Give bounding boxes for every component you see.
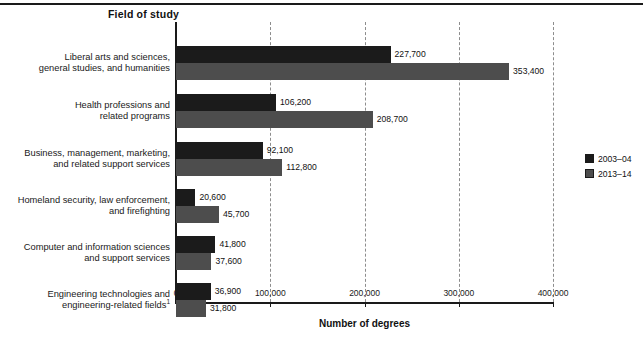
bar-value-label: 227,700 <box>395 46 426 63</box>
x-axis-tick <box>459 302 460 307</box>
top-rule-divider <box>0 3 643 5</box>
legend-label: 2013–14 <box>598 169 631 179</box>
category-label-column: Liberal arts and sciences,general studie… <box>0 22 170 302</box>
x-axis-tick-label: 300,000 <box>443 288 474 298</box>
x-axis-tick-label: 200,000 <box>349 288 380 298</box>
x-axis-tick-label: 0 <box>174 288 179 298</box>
legend-swatch-icon <box>585 154 594 163</box>
category-label-line: Homeland security, law enforcement, <box>2 195 170 207</box>
category-label: Health professions andrelated programs <box>2 100 170 123</box>
x-axis-label: Number of degrees <box>176 318 553 329</box>
bar-value-label: 37,600 <box>215 253 241 270</box>
bar-series-1 <box>176 283 211 300</box>
bar-value-label: 353,400 <box>513 63 544 80</box>
category-label-line: and related support services <box>2 159 170 171</box>
plot-area: 227,700353,400106,200208,70092,100112,80… <box>176 22 553 302</box>
gridline <box>553 22 555 302</box>
bar-value-label: 36,900 <box>215 283 241 300</box>
category-label-line: related programs <box>2 111 170 123</box>
bar-value-label: 112,800 <box>286 159 316 176</box>
category-label-line: and support services <box>2 253 170 265</box>
x-axis-tick <box>270 302 271 307</box>
bar-series-1 <box>176 189 195 206</box>
category-label-line: and firefighting <box>2 206 170 218</box>
footnote-marker: 1 <box>166 298 170 305</box>
bar-value-label: 208,700 <box>377 111 408 128</box>
bar-value-label: 92,100 <box>267 142 293 159</box>
legend-swatch-icon <box>585 169 594 178</box>
bar-series-2 <box>176 206 219 223</box>
legend-item[interactable]: 2013–14 <box>585 167 631 180</box>
bar-series-1 <box>176 236 215 253</box>
category-label-line: Liberal arts and sciences, <box>2 52 170 64</box>
x-axis-tick-label: 400,000 <box>538 288 569 298</box>
bar-value-label: 45,700 <box>223 206 249 223</box>
category-label-line: Engineering technologies and <box>2 289 170 301</box>
category-label-line: engineering-related fields1 <box>2 300 170 312</box>
bar-series-2 <box>176 300 206 317</box>
category-label-line: general studies, and humanities <box>2 63 170 75</box>
x-axis-tick-label: 100,000 <box>255 288 286 298</box>
category-label: Homeland security, law enforcement,and f… <box>2 195 170 218</box>
legend-item[interactable]: 2003–04 <box>585 152 631 165</box>
bar-value-label: 106,200 <box>280 94 311 111</box>
bar-series-1 <box>176 94 276 111</box>
bar-series-2 <box>176 253 211 270</box>
bar-series-1 <box>176 46 391 63</box>
page-title: Field of study <box>108 8 179 20</box>
category-label: Liberal arts and sciences,general studie… <box>2 52 170 75</box>
bar-series-1 <box>176 142 263 159</box>
bar-value-label: 20,600 <box>199 189 225 206</box>
category-label: Engineering technologies andengineering-… <box>2 289 170 312</box>
x-axis-tick <box>365 302 366 307</box>
legend-label: 2003–04 <box>598 154 631 164</box>
legend: 2003–042013–14 <box>585 152 631 182</box>
bar-series-2 <box>176 63 509 80</box>
category-label-line: Computer and information sciences <box>2 242 170 254</box>
category-label-line: Health professions and <box>2 100 170 112</box>
category-label: Computer and information sciencesand sup… <box>2 242 170 265</box>
bar-series-2 <box>176 159 282 176</box>
figure-container: Field of study Liberal arts and sciences… <box>0 0 643 339</box>
bar-value-label: 31,800 <box>210 300 236 317</box>
x-axis-tick <box>553 302 554 307</box>
category-label: Business, management, marketing,and rela… <box>2 148 170 171</box>
category-label-line: Business, management, marketing, <box>2 148 170 160</box>
bar-series-2 <box>176 111 373 128</box>
bar-value-label: 41,800 <box>219 236 245 253</box>
